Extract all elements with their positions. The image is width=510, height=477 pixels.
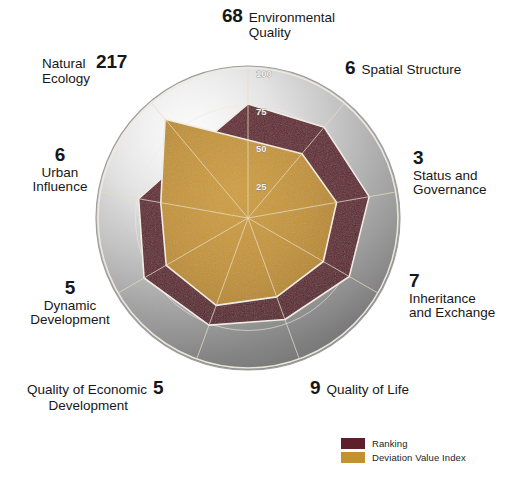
- axis-name-dynamic-development-line2: Development: [14, 313, 126, 328]
- axis-value-status-and-governance: 3: [413, 148, 487, 169]
- axis-value-spatial-structure: 6: [345, 58, 355, 79]
- axis-name-urban-influence-line2: Influence: [12, 180, 108, 195]
- axis-label-status-and-governance: 3 Status and Governance: [413, 148, 487, 198]
- axis-name-inheritance-and-exchange-line1: Inheritance: [409, 292, 495, 307]
- axis-value-urban-influence: 6: [12, 145, 108, 166]
- axis-value-inheritance-and-exchange: 7: [409, 271, 495, 292]
- axis-name-environmental-quality-line1: Environmental: [249, 11, 335, 26]
- axis-name-status-and-governance-line2: Governance: [413, 183, 487, 198]
- axis-value-quality-of-life: 9: [310, 378, 320, 399]
- axis-label-inheritance-and-exchange: 7 Inheritance and Exchange: [409, 271, 495, 321]
- svg-text:25: 25: [256, 181, 267, 192]
- axis-name-natural-ecology-line1: Natural: [42, 57, 90, 72]
- axis-label-spatial-structure: 6 Spatial Structure: [345, 58, 461, 79]
- axis-label-quality-of-life: 9 Quality of Life: [310, 378, 409, 399]
- axis-value-dynamic-development: 5: [14, 278, 126, 299]
- svg-text:50: 50: [256, 143, 267, 154]
- axis-name-environmental-quality-line2: Quality: [249, 26, 335, 41]
- axis-value-natural-ecology: 217: [96, 52, 127, 73]
- svg-text:100: 100: [256, 68, 272, 79]
- axis-label-environmental-quality: 68 Environmental Quality: [222, 6, 335, 40]
- axis-value-quality-of-economic-development: 5: [153, 378, 163, 399]
- radar-chart-figure: 100755025 68 Environmental Quality 6 Spa…: [0, 0, 510, 477]
- legend-label-ranking: Ranking: [372, 438, 408, 449]
- axis-label-quality-of-economic-development: Quality of Economic 5 Development: [27, 378, 163, 413]
- legend-item-deviation-value-index: Deviation Value Index: [341, 452, 466, 463]
- chart-legend: Ranking Deviation Value Index: [341, 438, 466, 466]
- legend-label-deviation-value-index: Deviation Value Index: [372, 452, 466, 463]
- axis-name-status-and-governance-line1: Status and: [413, 169, 487, 184]
- legend-swatch-deviation-value-index: [341, 452, 365, 463]
- axis-label-urban-influence: 6 Urban Influence: [12, 145, 108, 195]
- axis-name-spatial-structure: Spatial Structure: [361, 63, 461, 78]
- axis-name-natural-ecology-line2: Ecology: [42, 72, 90, 87]
- axis-name-quality-of-economic-development-line1: Quality of Economic: [27, 383, 147, 398]
- legend-swatch-ranking: [341, 438, 365, 449]
- axis-name-urban-influence-line1: Urban: [12, 166, 108, 181]
- axis-name-quality-of-economic-development-line2: Development: [27, 399, 163, 414]
- axis-label-natural-ecology: Natural Ecology 217: [42, 52, 127, 86]
- axis-value-environmental-quality: 68: [222, 6, 243, 27]
- legend-item-ranking: Ranking: [341, 438, 466, 449]
- svg-text:75: 75: [256, 106, 267, 117]
- axis-name-inheritance-and-exchange-line2: and Exchange: [409, 306, 495, 321]
- axis-name-quality-of-life: Quality of Life: [326, 383, 409, 398]
- axis-name-dynamic-development-line1: Dynamic: [14, 299, 126, 314]
- axis-label-dynamic-development: 5 Dynamic Development: [14, 278, 126, 328]
